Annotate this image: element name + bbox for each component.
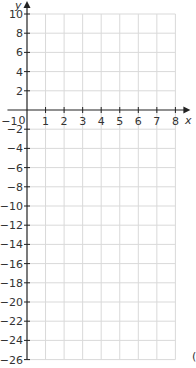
y-tick-label: 4 <box>16 66 23 79</box>
edge-fragment: ( <box>192 350 196 363</box>
y-tick-label: −8 <box>7 181 23 194</box>
y-tick-label: 8 <box>16 27 23 40</box>
y-tick-label: −22 <box>0 315 23 328</box>
x-tick-label: 7 <box>153 115 160 128</box>
y-tick-label: −12 <box>0 219 23 232</box>
x-tick-label: 1 <box>42 115 49 128</box>
y-tick-label: 6 <box>16 46 23 59</box>
x-tick-label: 2 <box>61 115 68 128</box>
axes <box>7 1 190 360</box>
x-tick-label: 5 <box>116 115 123 128</box>
y-tick-label: −6 <box>7 162 23 175</box>
y-axis-label: y <box>14 0 22 12</box>
y-tick-label: −10 <box>0 200 23 213</box>
x-tick-label: 3 <box>79 115 86 128</box>
y-tick-label: −2 <box>7 123 23 136</box>
y-tick-label: −20 <box>0 296 23 309</box>
y-tick-label: −18 <box>0 277 23 290</box>
y-tick-label: −24 <box>0 334 23 347</box>
grid-lines <box>27 14 175 360</box>
y-tick-label: −16 <box>0 258 23 271</box>
y-tick-label: 2 <box>16 85 23 98</box>
x-axis-label: x <box>184 114 192 127</box>
coordinate-grid-chart: 12345678−10108642−2−4−6−8−10−12−14−16−18… <box>0 0 196 368</box>
y-tick-label: −4 <box>7 142 23 155</box>
x-tick-label: 6 <box>135 115 142 128</box>
x-axis-arrow-icon <box>183 107 190 114</box>
y-tick-label: −14 <box>0 238 23 251</box>
y-axis-arrow-icon <box>24 1 31 8</box>
x-tick-label: 4 <box>98 115 105 128</box>
y-tick-label: −26 <box>0 354 23 367</box>
x-tick-label: 8 <box>172 115 179 128</box>
